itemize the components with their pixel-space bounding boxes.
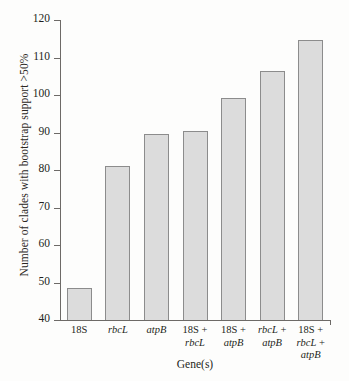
y-axis-tick: 60: [54, 245, 60, 246]
x-axis-tick-label: 18S: [58, 324, 101, 337]
y-axis-tick: 50: [54, 283, 60, 284]
x-axis-tick-label: 18S + rbcL + atpB: [289, 324, 332, 362]
y-axis-tick: 110: [54, 58, 60, 59]
y-axis-tick-label: 90: [39, 125, 51, 137]
bar: [183, 131, 208, 320]
y-axis-tick-label: 100: [33, 87, 50, 99]
x-axis-tick-label: rbcL + atpB: [251, 324, 294, 349]
x-axis-tick-label: 18S + rbcL: [174, 324, 217, 349]
bar: [105, 166, 130, 320]
y-axis-tick-label: 120: [33, 12, 50, 24]
y-axis-title: Number of clades with bootstrap support …: [14, 0, 34, 330]
x-axis-tick-label: 18S + atpB: [212, 324, 255, 349]
x-axis-tick-label: rbcL: [97, 324, 140, 337]
y-axis-title-text: Number of clades with bootstrap support …: [18, 54, 30, 277]
y-axis-tick: 80: [54, 170, 60, 171]
y-axis-tick-label: 50: [39, 275, 51, 287]
bar: [67, 288, 92, 320]
bar-chart-figure: Number of clades with bootstrap support …: [0, 0, 349, 381]
y-axis-tick-label: 80: [39, 162, 51, 174]
bar: [298, 40, 323, 320]
x-axis-tick-labels: 18SrbcLatpB18S + rbcL18S + atpBrbcL + at…: [60, 324, 330, 360]
x-axis-tick-label: atpB: [135, 324, 178, 337]
y-axis-tick: 70: [54, 208, 60, 209]
x-axis-title: Gene(s): [60, 358, 330, 370]
y-axis-line: [60, 20, 61, 321]
y-axis-tick-label: 40: [39, 312, 51, 324]
y-axis-tick: 120: [54, 20, 60, 21]
bar: [144, 134, 169, 320]
y-axis-tick: 40: [54, 320, 60, 321]
y-axis-tick-label: 60: [39, 237, 51, 249]
y-axis-tick: 100: [54, 95, 60, 96]
x-axis-line: [60, 320, 331, 321]
y-axis-tick-label: 70: [39, 200, 51, 212]
y-axis-tick-label: 110: [33, 50, 50, 62]
bar: [221, 98, 246, 320]
y-axis-tick: 90: [54, 133, 60, 134]
plot-area: 405060708090100110120: [60, 20, 330, 320]
bar: [260, 71, 285, 320]
